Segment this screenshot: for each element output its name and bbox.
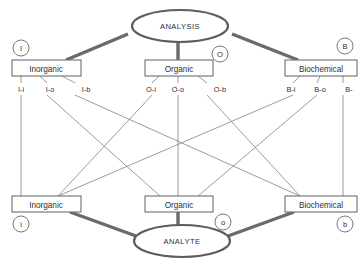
top-biochemical-label: Biochemical: [299, 65, 343, 74]
tag-biochemical-lower: b: [337, 216, 353, 232]
bottom-node-organic[interactable]: Organic: [145, 196, 213, 212]
tag-label-I: I: [20, 44, 22, 53]
top-node-organic[interactable]: Organic: [145, 60, 213, 76]
analyte-label: ANALYTE: [163, 237, 200, 246]
top-organic-label: Organic: [165, 65, 194, 74]
top-box-stubs: [21, 76, 343, 83]
bottom-biochemical-label: Biochemical: [299, 201, 343, 210]
edge-label-B-b: B-: [345, 85, 353, 94]
bottom-organic-label: Organic: [165, 201, 194, 210]
tag-inorganic-lower: i: [13, 216, 29, 232]
edge-O-b: [207, 95, 300, 196]
edge-label-I-i: I-i: [18, 85, 25, 94]
edge-label-O-o: O-o: [172, 85, 184, 94]
tag-label-o: o: [221, 218, 225, 227]
edge-label-I-o: I-o: [46, 85, 55, 94]
edge-label-I-b: I-b: [82, 85, 91, 94]
stub-B-o: [317, 76, 320, 83]
edge-label-O-i: O-i: [146, 85, 156, 94]
tag-label-B: B: [342, 42, 347, 51]
stub-I-b: [62, 76, 75, 83]
bottom-node-biochemical[interactable]: Biochemical: [285, 196, 357, 212]
stub-O-i: [152, 76, 159, 83]
trunk-analysis-biochemical: [232, 34, 298, 60]
tag-biochemical-upper: B: [337, 38, 353, 54]
tag-inorganic-upper: I: [13, 40, 29, 56]
analysis-label: ANALYSIS: [160, 22, 200, 31]
top-node-inorganic[interactable]: Inorganic: [12, 60, 81, 76]
analysis-hub[interactable]: ANALYSIS: [132, 10, 228, 42]
edge-I-o: [47, 95, 160, 196]
stub-B-i: [293, 76, 300, 83]
top-inorganic-label: Inorganic: [29, 65, 63, 74]
edge-O-i: [58, 95, 152, 196]
analysis-analyte-diagram: ANALYSIS Inorganic I Organic O Biochemic…: [0, 0, 364, 266]
trunk-analysis-inorganic: [66, 34, 128, 60]
edge-group-biochemical: [58, 95, 343, 196]
top-node-biochemical[interactable]: Biochemical: [285, 60, 357, 76]
tag-organic-lower: o: [215, 214, 231, 230]
stub-I-o: [40, 76, 47, 83]
stub-O-b: [198, 76, 207, 83]
tag-label-b: b: [343, 220, 347, 229]
tag-label-O: O: [217, 50, 223, 59]
edge-I-b: [75, 95, 300, 196]
edge-label-B-i: B-i: [286, 85, 295, 94]
bottom-node-inorganic[interactable]: Inorganic: [12, 196, 81, 212]
tag-organic-upper: O: [212, 46, 228, 62]
trunk-biochemical-analyte: [228, 212, 294, 236]
trunk-inorganic-analyte: [70, 212, 136, 236]
edge-label-O-b: O-b: [214, 85, 226, 94]
bottom-inorganic-label: Inorganic: [29, 201, 63, 210]
edge-label-row: I-i I-o I-b O-i O-o O-b B-i B-o B-: [18, 85, 353, 94]
edge-label-B-o: B-o: [314, 85, 326, 94]
analyte-hub[interactable]: ANALYTE: [134, 225, 230, 257]
